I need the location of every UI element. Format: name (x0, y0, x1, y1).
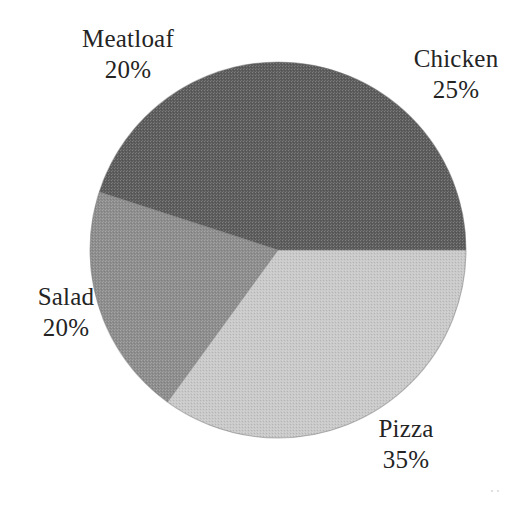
slice-label-salad-name: Salad (12, 282, 120, 313)
slice-label-meatloaf-name: Meatloaf (48, 24, 208, 55)
slice-label-meatloaf: Meatloaf 20% (48, 24, 208, 85)
slice-label-pizza: Pizza 35% (344, 414, 468, 475)
slice-label-meatloaf-value: 20% (48, 55, 208, 86)
slice-label-pizza-value: 35% (344, 445, 468, 476)
slice-label-salad-value: 20% (12, 313, 120, 344)
slice-label-pizza-name: Pizza (344, 414, 468, 445)
slice-label-chicken: Chicken 25% (392, 44, 520, 105)
pie-chart: Meatloaf 20% Chicken 25% Salad 20% Pizza… (0, 0, 521, 512)
slice-label-chicken-name: Chicken (392, 44, 520, 75)
slice-label-chicken-value: 25% (392, 75, 520, 106)
slice-label-salad: Salad 20% (12, 282, 120, 343)
scan-artifact (487, 489, 503, 493)
